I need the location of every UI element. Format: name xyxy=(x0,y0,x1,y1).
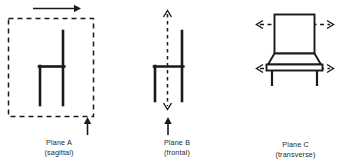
plane-c-caption-qualifier: (transverse) xyxy=(236,150,355,160)
planes-of-motion-figure: Plane A (sagittal) P xyxy=(0,0,355,168)
plane-a-chair-icon xyxy=(39,31,64,105)
plane-c-panel: Plane C (transverse) xyxy=(236,0,355,168)
plane-c-chair-icon xyxy=(267,15,323,71)
plane-b-caption: Plane B (frontal) xyxy=(118,138,236,157)
plane-a-bottom-arrow-icon xyxy=(84,117,91,135)
plane-c-chair-legs-icon xyxy=(272,71,317,87)
plane-a-panel: Plane A (sagittal) xyxy=(0,0,118,168)
plane-b-caption-qualifier: (frontal) xyxy=(118,148,236,158)
plane-b-dashed-plane-arrow-icon xyxy=(164,11,172,110)
plane-a-diagram xyxy=(0,0,118,136)
plane-c-diagram xyxy=(236,0,355,136)
plane-c-caption: Plane C (transverse) xyxy=(236,140,355,159)
plane-b-panel: Plane B (frontal) xyxy=(118,0,236,168)
plane-a-caption: Plane A (sagittal) xyxy=(0,138,118,157)
plane-b-chair-icon xyxy=(154,31,183,101)
plane-b-caption-name: Plane B xyxy=(118,138,236,148)
plane-b-bottom-arrow-icon xyxy=(164,117,171,135)
plane-c-caption-name: Plane C xyxy=(236,140,355,150)
plane-a-caption-qualifier: (sagittal) xyxy=(0,148,118,158)
plane-b-diagram xyxy=(118,0,236,136)
plane-a-top-arrow-icon xyxy=(33,5,81,12)
plane-a-caption-name: Plane A xyxy=(0,138,118,148)
